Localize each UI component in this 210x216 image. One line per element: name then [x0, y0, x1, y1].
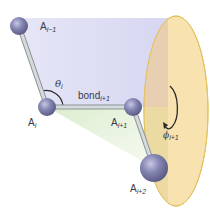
label-a-i-plus-1: Ai+1 [111, 118, 127, 129]
label-a-i: Ai [28, 118, 36, 129]
label-phi: ϕi+1 [163, 131, 179, 141]
dihedral-diagram [0, 0, 210, 216]
atom-a-i [38, 98, 56, 116]
atom-a-i-minus-1 [10, 17, 28, 35]
atom-a-i-plus-1 [124, 98, 142, 116]
label-a-i-minus-1: Ai−1 [40, 22, 56, 33]
label-a-i-plus-2: Ai+2 [130, 184, 146, 195]
label-theta: θi [55, 79, 63, 90]
label-bond: bondi+1 [78, 91, 110, 102]
atom-a-i-plus-2 [140, 154, 168, 182]
